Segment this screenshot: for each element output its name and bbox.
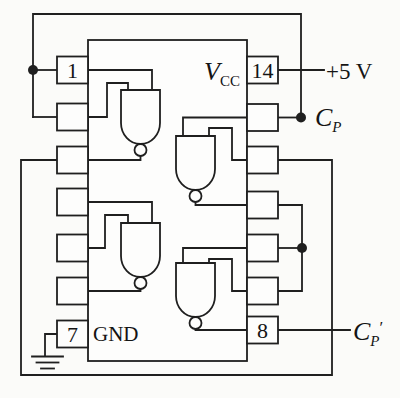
nand-gate-4-bubble [190,317,202,329]
pin-4-box [57,189,88,216]
nand-gate-1-body [121,90,160,144]
nand-gate-4-body [176,263,215,317]
pin-1-label: 1 [67,58,78,83]
cp-label: CP [315,103,342,135]
nand-gate-2-body [176,136,215,190]
pin-12-box [247,147,278,174]
supply-label: +5 V [326,59,373,84]
junction-dot-pin1-pin2 [28,65,38,75]
circuit-diagram: 1 14 7 8 VCC GND +5 V CP CP′ [0,0,400,398]
ground-symbol [32,357,63,369]
pin-10-box [247,235,278,262]
nand-gate-3-bubble [135,277,147,289]
junction-dot-cp [296,113,306,123]
pin-13-box [247,104,278,131]
pin-3-box [57,147,88,174]
pin-7-label: 7 [67,322,78,347]
pin-6-box [57,278,88,305]
wire-pin7-ground [45,334,57,356]
pin-2-box [57,104,88,131]
junction-dot-pin10 [297,243,307,253]
nand-gate-2-bubble [190,190,202,202]
pin-8-label: 8 [257,318,268,343]
cp-prime-label: CP′ [353,317,383,349]
pin-9-box [247,278,278,305]
pin-14-label: 14 [252,58,274,83]
gnd-label: GND [93,322,139,346]
nand-gate-1-bubble [135,144,147,156]
pin-5-box [57,235,88,262]
ic-wiring-schematic: 1 14 7 8 VCC GND +5 V CP CP′ [0,0,400,398]
pin-11-box [247,192,278,219]
wire-gate4-pin8 [196,329,248,330]
nand-gate-3-body [121,223,160,277]
